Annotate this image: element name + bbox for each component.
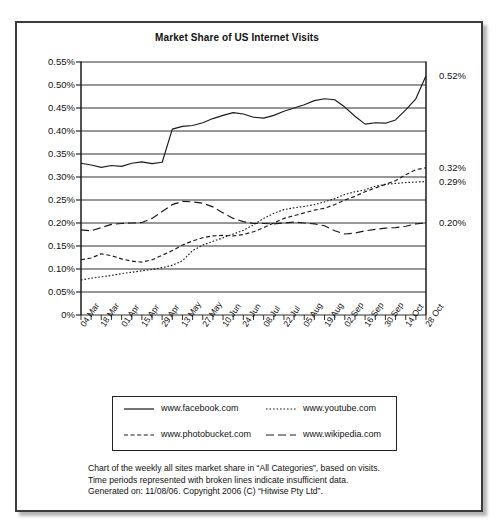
y-axis-label: 0.20% xyxy=(21,217,75,228)
top-fragment-text: · · · · · · · · · · · · xyxy=(0,0,502,4)
y-axis-label: 0.10% xyxy=(21,263,75,274)
caption-line-2: Time periods represented with broken lin… xyxy=(88,475,458,487)
legend-swatch-0 xyxy=(123,405,155,413)
y-axis-label: 0.55% xyxy=(21,56,75,67)
y-axis-label: 0.05% xyxy=(21,286,75,297)
legend-label-1: www.youtube.com xyxy=(303,403,376,413)
legend-label-2: www.photobucket.com xyxy=(161,429,251,439)
legend-swatch-2 xyxy=(123,431,155,439)
chart-caption: Chart of the weekly all sites market sha… xyxy=(88,463,458,498)
legend-swatch-1 xyxy=(265,405,297,413)
y-axis-label: 0% xyxy=(21,309,75,320)
legend-label-0: www.facebook.com xyxy=(161,403,239,413)
y-axis-label: 0.45% xyxy=(21,102,75,113)
legend-swatch-3 xyxy=(265,431,297,439)
legend-label-3: www.wikipedia.com xyxy=(303,429,381,439)
series-end-label-1: 0.29% xyxy=(439,176,466,187)
caption-line-1: Chart of the weekly all sites market sha… xyxy=(88,463,458,475)
chart-card: Market Share of US Internet Visits 0.55%… xyxy=(15,21,483,512)
series-end-label-2: 0.32% xyxy=(439,162,466,173)
y-axis-label: 0.25% xyxy=(21,194,75,205)
y-axis-label: 0.30% xyxy=(21,171,75,182)
y-axis-label: 0.15% xyxy=(21,240,75,251)
page-top-text-fragment: · · · · · · · · · · · · xyxy=(0,0,502,14)
series-line-2 xyxy=(81,168,426,262)
y-axis-label: 0.40% xyxy=(21,125,75,136)
y-axis-label: 0.50% xyxy=(21,79,75,90)
chart-legend: www.facebook.comwww.youtube.comwww.photo… xyxy=(112,396,397,451)
y-axis-label: 0.35% xyxy=(21,148,75,159)
series-line-3 xyxy=(81,201,426,234)
series-end-label-0: 0.52% xyxy=(439,70,466,81)
series-end-label-3: 0.20% xyxy=(439,217,466,228)
series-line-1 xyxy=(81,182,426,280)
caption-line-3: Generated on: 11/08/06. Copyright 2006 (… xyxy=(88,486,458,498)
